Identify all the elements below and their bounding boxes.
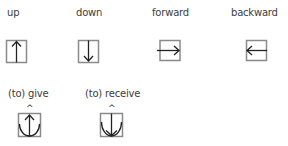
label-down: down — [76, 7, 102, 18]
label-give: (to) give — [8, 88, 48, 99]
down-arrow-box-icon — [77, 39, 101, 65]
up-arrow-box-icon — [5, 39, 29, 65]
label-up: up — [7, 7, 19, 18]
label-forward: forward — [152, 7, 189, 18]
receive-glyph-icon — [99, 112, 125, 139]
label-backward: backward — [231, 7, 278, 18]
label-receive: (to) receive — [85, 88, 140, 99]
right-arrow-box-icon — [156, 39, 184, 63]
give-glyph-icon — [17, 112, 43, 139]
left-arrow-box-icon — [243, 39, 271, 63]
